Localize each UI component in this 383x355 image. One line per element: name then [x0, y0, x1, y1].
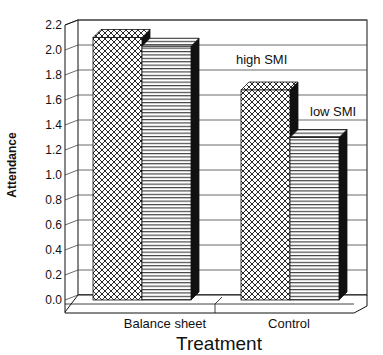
- y-tick-label: 1.6: [45, 93, 62, 107]
- y-tick-label: 0.6: [45, 218, 62, 232]
- bar-low-smi-control: [290, 130, 347, 301]
- annotation-low-smi: low SMI: [310, 104, 356, 119]
- y-tick-label: 1.4: [45, 118, 62, 132]
- category-label-control: Control: [268, 316, 310, 331]
- bar-high-smi-balance-sheet: [93, 30, 150, 301]
- y-tick-label: 0.2: [45, 268, 62, 282]
- bar-low-smi-balance-sheet: [142, 38, 199, 300]
- y-tick-label: 0.0: [45, 293, 62, 307]
- y-tick-label: 2.2: [45, 18, 62, 32]
- category-label-balance-sheet: Balance sheet: [124, 316, 207, 331]
- y-tick-label: 1.2: [45, 143, 62, 157]
- y-tick-label: 0.4: [45, 243, 62, 257]
- y-tick-label: 1.8: [45, 68, 62, 82]
- y-tick-label: 1.0: [45, 168, 62, 182]
- annotation-high-smi: high SMI: [236, 52, 287, 67]
- y-tick-label: 2.0: [45, 43, 62, 57]
- attendance-bar-chart: 0.00.20.40.60.81.01.21.41.61.82.02.2 hig…: [0, 0, 383, 355]
- y-tick-label: 0.8: [45, 193, 62, 207]
- x-axis-title: Treatment: [176, 333, 263, 354]
- y-axis-title: Attendance: [5, 132, 19, 198]
- bar-high-smi-control: [241, 82, 298, 300]
